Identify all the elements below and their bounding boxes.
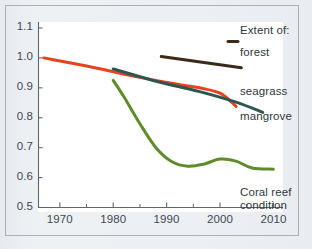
x-tick-label: 1990 (145, 213, 189, 225)
legend-item-mangrove[interactable]: mangrove (240, 110, 292, 122)
y-tick-label: 1.1 (2, 20, 33, 32)
coral-reef-annotation-line2: condition (240, 199, 287, 211)
y-tick-label: 0.6 (2, 170, 33, 182)
x-tick-label: 1970 (38, 213, 82, 225)
x-tick-label: 2000 (198, 213, 242, 225)
legend-item-forest[interactable]: forest (240, 46, 269, 58)
legend-item-seagrass[interactable]: seagrass (240, 85, 287, 97)
coral-reef-annotation-line1: Coral reef (240, 186, 292, 198)
x-tick-label: 1980 (91, 213, 135, 225)
x-tick-label: 2010 (251, 213, 295, 225)
coral-reef-condition-annotation: Coral reef condition (240, 186, 300, 212)
y-tick-label: 1.0 (2, 50, 33, 62)
legend-heading: Extent of: (240, 24, 290, 36)
y-tick-label: 0.9 (2, 80, 33, 92)
y-tick-label: 0.7 (2, 140, 33, 152)
chart-figure: 0.50.60.70.80.91.01.1 197019801990200020… (0, 0, 312, 249)
y-tick-label: 0.5 (2, 200, 33, 212)
y-tick-label: 0.8 (2, 110, 33, 122)
